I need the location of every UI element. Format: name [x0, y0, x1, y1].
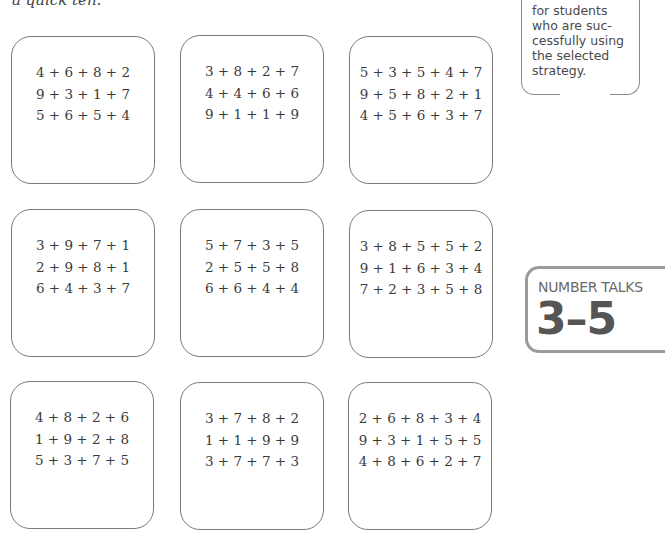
problem-string: 2 + 6 + 8 + 3 + 4	[349, 408, 491, 430]
number-talks-badge: NUMBER TALKS 3–5	[525, 266, 665, 353]
problem-card: 2 + 6 + 8 + 3 + 4 9 + 3 + 1 + 5 + 5 4 + …	[348, 382, 492, 530]
problem-string: 6 + 6 + 4 + 4	[181, 278, 323, 300]
problem-string: 9 + 3 + 1 + 5 + 5	[349, 430, 491, 452]
problem-string: 4 + 6 + 8 + 2	[12, 62, 154, 84]
problem-string: 2 + 9 + 8 + 1	[12, 257, 154, 279]
problem-string: 5 + 6 + 5 + 4	[12, 105, 154, 127]
problem-string: 3 + 9 + 7 + 1	[12, 235, 154, 257]
problem-string: 1 + 9 + 2 + 8	[11, 429, 153, 451]
badge-grade: 3–5	[536, 293, 616, 344]
callout-text: for students who are suc- cessfully usin…	[532, 3, 624, 78]
problem-card: 5 + 7 + 3 + 5 2 + 5 + 5 + 8 6 + 6 + 4 + …	[180, 209, 324, 357]
problem-string: 3 + 7 + 7 + 3	[181, 451, 323, 473]
problem-string: 5 + 3 + 5 + 4 + 7	[350, 62, 492, 84]
teacher-note-callout: for students who are suc- cessfully usin…	[521, 0, 640, 95]
intro-text: a quick ten.	[12, 0, 101, 9]
problem-string: 3 + 8 + 5 + 5 + 2	[350, 236, 492, 258]
callout-border-gap	[560, 90, 610, 98]
problem-string: 4 + 4 + 6 + 6	[181, 83, 323, 105]
callout-line: who are suc-	[532, 18, 612, 33]
problem-card: 3 + 8 + 2 + 7 4 + 4 + 6 + 6 9 + 1 + 1 + …	[180, 35, 324, 183]
callout-line: the selected	[532, 48, 609, 63]
problem-card: 4 + 8 + 2 + 6 1 + 9 + 2 + 8 5 + 3 + 7 + …	[10, 381, 154, 529]
problem-string: 5 + 7 + 3 + 5	[181, 235, 323, 257]
problem-card: 5 + 3 + 5 + 4 + 7 9 + 5 + 8 + 2 + 1 4 + …	[349, 36, 493, 184]
problem-string: 9 + 1 + 1 + 9	[181, 104, 323, 126]
problem-string: 7 + 2 + 3 + 5 + 8	[350, 279, 492, 301]
callout-line: cessfully using	[532, 33, 624, 48]
problem-card: 3 + 8 + 5 + 5 + 2 9 + 1 + 6 + 3 + 4 7 + …	[349, 210, 493, 358]
problem-string: 9 + 1 + 6 + 3 + 4	[350, 258, 492, 280]
problem-string: 4 + 5 + 6 + 3 + 7	[350, 105, 492, 127]
problem-string: 6 + 4 + 3 + 7	[12, 278, 154, 300]
problem-string: 3 + 8 + 2 + 7	[181, 61, 323, 83]
problem-string: 2 + 5 + 5 + 8	[181, 257, 323, 279]
problem-string: 9 + 5 + 8 + 2 + 1	[350, 84, 492, 106]
problem-string: 5 + 3 + 7 + 5	[11, 450, 153, 472]
callout-line: strategy.	[532, 63, 586, 78]
problem-card: 3 + 7 + 8 + 2 1 + 1 + 9 + 9 3 + 7 + 7 + …	[180, 382, 324, 530]
problem-card: 3 + 9 + 7 + 1 2 + 9 + 8 + 1 6 + 4 + 3 + …	[11, 209, 155, 357]
problem-string: 3 + 7 + 8 + 2	[181, 408, 323, 430]
callout-line: for students	[532, 3, 607, 18]
problem-string: 9 + 3 + 1 + 7	[12, 84, 154, 106]
problem-string: 4 + 8 + 2 + 6	[11, 407, 153, 429]
problem-string: 4 + 8 + 6 + 2 + 7	[349, 451, 491, 473]
problem-string: 1 + 1 + 9 + 9	[181, 430, 323, 452]
problem-card: 4 + 6 + 8 + 2 9 + 3 + 1 + 7 5 + 6 + 5 + …	[11, 36, 155, 184]
